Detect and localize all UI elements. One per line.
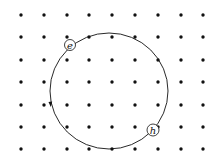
field-dot-icon — [156, 35, 159, 38]
field-dot-icon — [110, 103, 113, 106]
field-dot-icon — [65, 103, 68, 106]
particle-h-label: h — [150, 125, 156, 136]
field-dot-icon — [179, 80, 182, 83]
field-dot-icon — [110, 80, 113, 83]
field-dot-icon — [156, 80, 159, 83]
field-dot-icon — [65, 125, 68, 128]
field-dot-icon — [110, 35, 113, 38]
field-dot-icon — [179, 13, 182, 16]
field-dot-icon — [156, 13, 159, 16]
field-dot-icon — [65, 13, 68, 16]
field-dot-icon — [42, 125, 45, 128]
field-dot-icon — [19, 125, 22, 128]
field-dot-icon — [110, 125, 113, 128]
field-dot-icon — [133, 80, 136, 83]
field-dot-icon — [87, 80, 90, 83]
field-dot-icon — [156, 103, 159, 106]
field-dot-icon — [179, 58, 182, 61]
magnetic-field-dot-grid — [19, 13, 204, 150]
field-dot-icon — [42, 13, 45, 16]
field-dot-icon — [201, 13, 204, 16]
magnetic-field-diagram: e h — [0, 0, 222, 162]
field-dot-icon — [65, 35, 68, 38]
field-dot-icon — [19, 147, 22, 150]
field-dot-icon — [65, 147, 68, 150]
field-dot-icon — [133, 147, 136, 150]
field-dot-icon — [42, 58, 45, 61]
particle-e: e — [65, 40, 76, 51]
field-dot-icon — [19, 58, 22, 61]
field-dot-icon — [19, 13, 22, 16]
field-dot-icon — [42, 80, 45, 83]
field-dot-icon — [179, 35, 182, 38]
field-dot-icon — [133, 125, 136, 128]
field-dot-icon — [87, 147, 90, 150]
field-dot-icon — [19, 35, 22, 38]
field-dot-icon — [110, 13, 113, 16]
field-dot-icon — [19, 80, 22, 83]
field-dot-icon — [133, 13, 136, 16]
field-dot-icon — [201, 103, 204, 106]
field-dot-icon — [42, 35, 45, 38]
field-dot-icon — [65, 58, 68, 61]
field-dot-icon — [201, 125, 204, 128]
particle-e-label: e — [67, 40, 73, 51]
field-dot-icon — [65, 80, 68, 83]
field-dot-icon — [87, 103, 90, 106]
field-dot-icon — [133, 58, 136, 61]
field-dot-icon — [19, 103, 22, 106]
field-dot-icon — [201, 58, 204, 61]
field-dot-icon — [133, 103, 136, 106]
field-dot-icon — [201, 80, 204, 83]
field-dot-icon — [179, 147, 182, 150]
field-dot-icon — [42, 103, 45, 106]
field-dot-icon — [156, 147, 159, 150]
field-dot-icon — [87, 58, 90, 61]
field-dot-icon — [179, 125, 182, 128]
field-dot-icon — [201, 35, 204, 38]
particle-h: h — [147, 124, 159, 136]
field-dot-icon — [179, 103, 182, 106]
field-dot-icon — [201, 147, 204, 150]
field-dot-icon — [87, 125, 90, 128]
field-dot-icon — [87, 13, 90, 16]
field-dot-icon — [110, 58, 113, 61]
field-dot-icon — [42, 147, 45, 150]
